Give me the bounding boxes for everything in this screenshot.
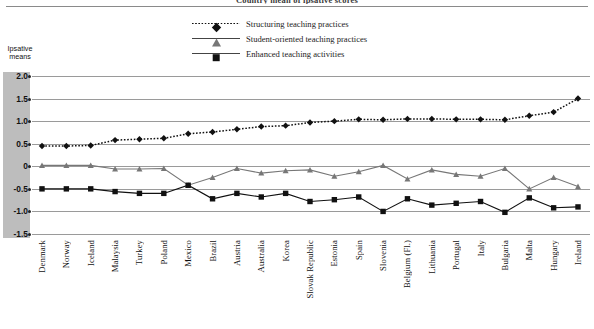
y-axis-tick-label: -0.5: [0, 184, 28, 194]
diamond-marker: [429, 116, 435, 122]
triangle-marker: [551, 175, 557, 181]
axis-tick-dot: [28, 188, 31, 191]
x-axis-label-mexico: Mexico: [183, 240, 193, 267]
y-axis-tick-label: 1.0: [0, 116, 28, 126]
diamond-marker: [88, 142, 94, 148]
legend-item-structuring: Structuring teaching practices: [192, 16, 367, 31]
diamond-marker: [331, 118, 337, 124]
square-marker: [211, 49, 222, 67]
y-axis-title-line2: means: [2, 53, 38, 61]
x-axis-label-portugal: Portugal: [451, 240, 461, 270]
square-marker: [575, 204, 580, 209]
square-marker: [356, 194, 361, 199]
diamond-marker: [502, 117, 508, 123]
diamond-marker: [380, 117, 386, 123]
legend-label-enhanced: Enhanced teaching activities: [246, 49, 344, 59]
y-axis-tick-label: 0: [0, 161, 28, 171]
legend-key-student-oriented: [192, 33, 240, 44]
x-axis-label-malta: Malta: [524, 240, 534, 261]
diamond-marker: [112, 137, 118, 143]
x-axis-label-australia: Australia: [256, 240, 266, 272]
axis-tick-dot: [28, 143, 31, 146]
diamond-marker: [550, 109, 556, 115]
square-marker: [161, 191, 166, 196]
x-axis-label-estonia: Estonia: [329, 240, 339, 266]
square-marker: [502, 210, 507, 215]
square-marker: [332, 197, 337, 202]
diamond-marker: [356, 116, 362, 122]
plot-area: [32, 76, 590, 234]
gridline: [32, 234, 590, 235]
square-marker: [259, 194, 264, 199]
x-axis-label-slovenia: Slovenia: [378, 240, 388, 271]
legend-key-structuring: [192, 18, 240, 29]
chart-legend: Structuring teaching practices Student-o…: [192, 16, 367, 61]
axis-tick-dot: [28, 233, 31, 236]
square-marker: [39, 186, 44, 191]
square-marker: [307, 199, 312, 204]
square-marker: [453, 201, 458, 206]
x-axis-label-italy: Italy: [476, 240, 486, 256]
x-axis-label-ireland: Ireland: [573, 240, 583, 265]
legend-label-student-oriented: Student-oriented teaching practices: [246, 34, 367, 44]
diamond-marker: [39, 143, 45, 149]
x-axis-label-slovak-republic: Slovak Republic: [305, 240, 315, 299]
axis-tick-dot: [28, 120, 31, 123]
chart-title: Country mean of ipsative scores: [0, 0, 594, 4]
x-axis-label-lithuania: Lithuania: [427, 240, 437, 274]
diamond-marker: [161, 135, 167, 141]
x-axis-label-norway: Norway: [61, 240, 71, 268]
square-marker: [429, 202, 434, 207]
legend-item-enhanced: Enhanced teaching activities: [192, 46, 367, 61]
diamond-marker: [575, 95, 581, 101]
legend-item-student-oriented: Student-oriented teaching practices: [192, 31, 367, 46]
title-divider: [6, 6, 588, 7]
triangle-marker: [234, 166, 240, 172]
x-axis-label-korea: Korea: [281, 240, 291, 262]
diamond-marker: [453, 116, 459, 122]
square-marker: [551, 205, 556, 210]
x-axis-label-denmark: Denmark: [37, 240, 47, 273]
x-axis-labels: DenmarkNorwayIcelandMalaysiaTurkeyPoland…: [32, 240, 590, 329]
y-axis-tick-label: 0.5: [0, 139, 28, 149]
square-marker: [88, 186, 93, 191]
diamond-marker: [282, 122, 288, 128]
square-marker: [405, 196, 410, 201]
square-marker: [185, 183, 190, 188]
x-axis-label-hungary: Hungary: [549, 240, 559, 271]
square-marker: [283, 191, 288, 196]
y-axis-tick-label: 1.5: [0, 94, 28, 104]
square-marker: [234, 191, 239, 196]
diamond-marker: [185, 131, 191, 137]
x-axis-label-austria: Austria: [232, 240, 242, 266]
x-axis-label-spain: Spain: [354, 240, 364, 260]
series-layer: [32, 76, 590, 234]
square-marker: [478, 199, 483, 204]
square-marker: [380, 209, 385, 214]
legend-key-enhanced: [192, 48, 240, 59]
diamond-marker: [136, 136, 142, 142]
x-axis-label-poland: Poland: [159, 240, 169, 264]
chart-figure: Country mean of ipsative scores Structur…: [0, 0, 594, 329]
triangle-marker: [380, 162, 386, 168]
series-line-square: [42, 185, 578, 212]
square-marker: [210, 196, 215, 201]
axis-tick-dot: [28, 98, 31, 101]
diamond-marker: [404, 116, 410, 122]
y-axis-tick-label: 2.0: [0, 71, 28, 81]
axis-tick-dot: [28, 165, 31, 168]
x-axis-label-belgium-fl: Belgium (Fl.): [402, 240, 412, 288]
x-axis-label-bulgaria: Bulgaria: [500, 240, 510, 270]
x-axis-label-brazil: Brazil: [208, 240, 218, 262]
y-axis-tick-label: -1.0: [0, 206, 28, 216]
square-marker: [527, 195, 532, 200]
legend-label-structuring: Structuring teaching practices: [246, 19, 349, 29]
x-axis-label-turkey: Turkey: [134, 240, 144, 265]
diamond-marker: [258, 123, 264, 129]
triangle-marker: [429, 167, 435, 173]
square-marker: [112, 189, 117, 194]
triangle-marker: [502, 166, 508, 172]
square-marker: [137, 191, 142, 196]
diamond-marker: [209, 129, 215, 135]
axis-tick-dot: [28, 75, 31, 78]
